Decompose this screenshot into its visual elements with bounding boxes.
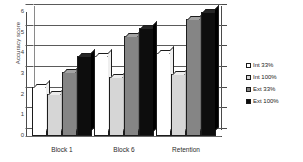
y-tick-mark — [222, 87, 227, 88]
legend-label: Int 100% — [253, 74, 277, 81]
legend-label: Int 33% — [253, 62, 273, 69]
bar-block-1-series-1 — [32, 87, 47, 136]
y-tick-mark — [222, 66, 227, 67]
y-tick-label: 1 — [21, 111, 24, 118]
gridline — [34, 4, 222, 5]
bar-side-face — [153, 21, 157, 132]
y-tick-mark — [222, 4, 227, 5]
bar-block-1-series-3 — [62, 72, 77, 136]
bar-block-1-series-2 — [47, 94, 62, 136]
bar-side-face — [91, 49, 95, 131]
y-tick-label: 5 — [21, 29, 24, 36]
legend-swatch-icon — [246, 63, 251, 68]
bar-block-6-series-2 — [109, 77, 124, 136]
legend-item-ext-33[interactable]: Ext 33% — [246, 84, 302, 94]
bar-side-face — [215, 5, 219, 131]
y-tick-label: 6 — [21, 8, 24, 15]
bar-retention-series-4 — [201, 12, 216, 136]
legend-item-int-33[interactable]: Int 33% — [246, 60, 302, 70]
gridline-depth — [25, 25, 34, 26]
legend-item-ext-100[interactable]: Ext 100% — [246, 96, 302, 106]
y-tick-mark — [222, 128, 227, 129]
legend-label: Ext 100% — [253, 98, 279, 105]
x-category-label: Block 1 — [32, 146, 92, 153]
legend-swatch-icon — [246, 87, 251, 92]
bar-retention-series-1 — [156, 53, 171, 136]
y-tick-mark — [222, 25, 227, 26]
gridline-depth — [25, 66, 34, 67]
y-axis-line — [26, 12, 27, 136]
chart-floor — [26, 136, 230, 144]
y-tick-label: 3 — [21, 70, 24, 77]
y-tick-mark — [222, 107, 227, 108]
plot-area: 0123456 — [26, 12, 222, 136]
bar-block-6-series-3 — [124, 36, 139, 136]
bar-retention-series-3 — [186, 19, 201, 136]
chart-legend: Int 33% Int 100% Ext 33% Ext 100% — [246, 60, 302, 108]
legend-swatch-icon — [246, 75, 251, 80]
x-category-label: Block 6 — [94, 146, 154, 153]
bar-block-6-series-1 — [94, 56, 109, 136]
floor-depth — [18, 136, 222, 144]
legend-label: Ext 33% — [253, 86, 275, 93]
y-tick-mark — [222, 45, 227, 46]
legend-swatch-icon — [246, 99, 251, 104]
y-tick-label: 4 — [21, 49, 24, 56]
accuracy-score-bar-chart: Accuracy score 0123456 Block 1Block 6Ret… — [0, 0, 303, 162]
bar-retention-series-2 — [171, 74, 186, 136]
bar-block-6-series-4 — [139, 28, 154, 137]
legend-item-int-100[interactable]: Int 100% — [246, 72, 302, 82]
x-category-label: Retention — [156, 146, 216, 153]
y-tick-label: 2 — [21, 91, 24, 98]
gridline-depth — [25, 4, 34, 5]
bar-block-1-series-4 — [77, 56, 92, 136]
